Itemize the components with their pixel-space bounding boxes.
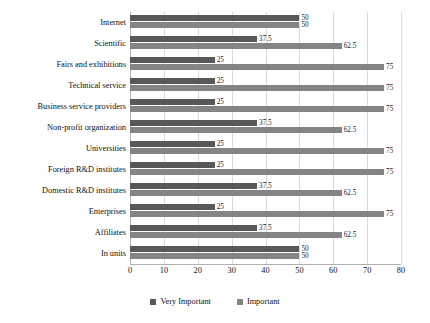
bar-very-important <box>130 57 215 63</box>
x-tick-label: 80 <box>397 266 405 276</box>
legend-swatch-icon <box>237 299 243 305</box>
bar-important <box>130 127 342 133</box>
bar-group: 37.562.5 <box>130 222 401 243</box>
x-tick-label: 20 <box>194 266 202 276</box>
x-tick-label: 0 <box>128 266 132 276</box>
bar-very-important <box>130 141 215 147</box>
x-axis-line <box>130 264 401 265</box>
bar-value-label: 37.5 <box>259 36 272 43</box>
bar-very-important <box>130 15 299 21</box>
category-label: In units <box>0 249 126 258</box>
x-tick-label: 30 <box>227 266 235 276</box>
category-label: Fairs and exhibitions <box>0 60 126 69</box>
x-tick-label: 40 <box>261 266 269 276</box>
bar-group: 37.562.5 <box>130 33 401 54</box>
bar-chart: 505037.562.525752575257537.562.525752575… <box>0 0 430 323</box>
bar-important <box>130 190 342 196</box>
bar-value-label: 25 <box>217 141 224 148</box>
bar-value-label: 62.5 <box>344 190 357 197</box>
bar-important <box>130 64 384 70</box>
legend-label: Very Important <box>160 297 210 306</box>
gridline <box>401 12 402 264</box>
bar-important <box>130 85 384 91</box>
x-axis-ticks: 01020304050607080 <box>130 266 401 280</box>
bar-rows: 505037.562.525752575257537.562.525752575… <box>130 12 401 264</box>
bar-value-label: 37.5 <box>259 183 272 190</box>
bar-group: 5050 <box>130 12 401 33</box>
bar-important <box>130 253 299 259</box>
bar-group: 2575 <box>130 201 401 222</box>
bar-important <box>130 106 384 112</box>
bar-very-important <box>130 162 215 168</box>
category-label: Technical service <box>0 81 126 90</box>
bar-group: 2575 <box>130 54 401 75</box>
plot-area: 505037.562.525752575257537.562.525752575… <box>130 12 401 264</box>
bar-value-label: 25 <box>217 204 224 211</box>
x-tick-label: 50 <box>295 266 303 276</box>
bar-value-label: 75 <box>386 64 393 71</box>
bar-value-label: 25 <box>217 99 224 106</box>
legend-item[interactable]: Important <box>237 297 280 306</box>
bar-group: 37.562.5 <box>130 180 401 201</box>
chart-legend: Very ImportantImportant <box>0 297 430 306</box>
bar-value-label: 50 <box>301 22 308 29</box>
bar-group: 5050 <box>130 243 401 264</box>
bar-very-important <box>130 204 215 210</box>
bar-value-label: 62.5 <box>344 232 357 239</box>
bar-group: 2575 <box>130 159 401 180</box>
bar-value-label: 62.5 <box>344 127 357 134</box>
bar-group: 37.562.5 <box>130 117 401 138</box>
category-label: Non-profit organization <box>0 123 126 132</box>
bar-important <box>130 232 342 238</box>
bar-value-label: 25 <box>217 57 224 64</box>
bar-important <box>130 211 384 217</box>
category-label: Domestic R&D institutes <box>0 186 126 195</box>
x-tick-label: 10 <box>160 266 168 276</box>
category-label: Internet <box>0 18 126 27</box>
legend-swatch-icon <box>150 299 156 305</box>
category-label: Foreign R&D institutes <box>0 165 126 174</box>
bar-important <box>130 169 384 175</box>
bar-value-label: 25 <box>217 162 224 169</box>
bar-value-label: 37.5 <box>259 120 272 127</box>
bar-important <box>130 148 384 154</box>
bar-value-label: 75 <box>386 85 393 92</box>
bar-very-important <box>130 36 257 42</box>
bar-very-important <box>130 246 299 252</box>
bar-value-label: 75 <box>386 106 393 113</box>
category-label: Enterprises <box>0 207 126 216</box>
bar-important <box>130 43 342 49</box>
bar-group: 2575 <box>130 96 401 117</box>
category-axis-labels: InternetScientificFairs and exhibitionsT… <box>0 12 126 264</box>
bar-value-label: 75 <box>386 169 393 176</box>
legend-item[interactable]: Very Important <box>150 297 210 306</box>
category-label: Affiliates <box>0 228 126 237</box>
bar-value-label: 75 <box>386 148 393 155</box>
x-tick-label: 60 <box>329 266 337 276</box>
bar-value-label: 75 <box>386 211 393 218</box>
bar-value-label: 62.5 <box>344 43 357 50</box>
category-label: Universities <box>0 144 126 153</box>
bar-value-label: 25 <box>217 78 224 85</box>
bar-value-label: 37.5 <box>259 225 272 232</box>
bar-very-important <box>130 78 215 84</box>
category-label: Scientific <box>0 39 126 48</box>
bar-very-important <box>130 225 257 231</box>
bar-very-important <box>130 183 257 189</box>
bar-important <box>130 22 299 28</box>
x-tick-label: 70 <box>363 266 371 276</box>
bar-group: 2575 <box>130 138 401 159</box>
bar-value-label: 50 <box>301 253 308 260</box>
bar-very-important <box>130 99 215 105</box>
legend-label: Important <box>247 297 280 306</box>
category-label: Business service providers <box>0 102 126 111</box>
bar-very-important <box>130 120 257 126</box>
bar-group: 2575 <box>130 75 401 96</box>
